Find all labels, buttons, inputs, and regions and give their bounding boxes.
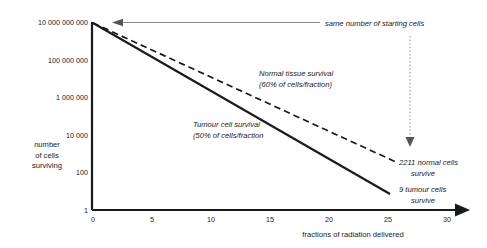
x-tick-label: 5 bbox=[150, 215, 154, 224]
starting-cells-callout-label: same number of starting cells bbox=[325, 19, 424, 28]
y-axis-title-line: surviving bbox=[32, 161, 62, 170]
normal-end-pointer bbox=[406, 36, 415, 147]
y-tick-labels: 10 000 000 000 100 000 000 1 000 000 10 … bbox=[38, 18, 88, 215]
x-axis-title: fractions of radiation delivered bbox=[302, 230, 403, 239]
y-tick-label: 1 bbox=[84, 206, 88, 215]
tumour-cell-label-line: Tumour cell survival bbox=[193, 120, 260, 129]
normal-end-label-line: survive bbox=[411, 169, 435, 178]
x-tick-label: 15 bbox=[266, 215, 274, 224]
normal-tissue-label-line: (60% of cells/fraction) bbox=[259, 80, 332, 89]
y-tick-label: 100 bbox=[76, 168, 88, 177]
tumour-end-label-line: survive bbox=[411, 196, 435, 205]
x-tick-label: 0 bbox=[91, 215, 95, 224]
y-tick-label: 1 000 000 bbox=[56, 93, 88, 102]
normal-end-label: 2211 normal cells survive bbox=[398, 158, 458, 178]
series-line-normal-tissue bbox=[93, 23, 396, 162]
normal-tissue-curve-label: Normal tissue survival (60% of cells/fra… bbox=[259, 69, 334, 89]
y-axis-title-line: of cells bbox=[35, 151, 59, 160]
x-tick-label: 30 bbox=[443, 215, 451, 224]
normal-end-arrowhead-icon bbox=[406, 137, 415, 147]
series-line-tumour-cell bbox=[93, 23, 390, 194]
x-tick-label: 25 bbox=[384, 215, 392, 224]
y-axis-title-line: number bbox=[34, 140, 60, 149]
tumour-end-label-line: 9 tumour cells bbox=[399, 185, 446, 194]
chart-svg: 10 000 000 000 100 000 000 1 000 000 10 … bbox=[0, 0, 487, 248]
y-tick-label: 100 000 000 bbox=[48, 56, 88, 65]
x-tick-labels: 0 5 10 15 20 25 30 bbox=[91, 215, 451, 224]
y-tick-label: 10 000 bbox=[66, 131, 88, 140]
tumour-cell-label-line: (50% of cells/fraction bbox=[193, 131, 263, 140]
normal-end-label-line: 2211 normal cells bbox=[398, 158, 458, 167]
x-tick-label: 20 bbox=[325, 215, 333, 224]
cell-survival-chart: 10 000 000 000 100 000 000 1 000 000 10 … bbox=[0, 0, 487, 248]
x-axis-arrowhead bbox=[455, 204, 470, 217]
normal-tissue-label-line: Normal tissue survival bbox=[259, 69, 334, 78]
tumour-end-label: 9 tumour cells survive bbox=[399, 185, 446, 205]
starting-cells-callout: same number of starting cells bbox=[112, 19, 424, 28]
starting-cells-arrowhead-icon bbox=[112, 19, 123, 26]
x-tick-label: 10 bbox=[207, 215, 215, 224]
y-axis-title: number of cells surviving bbox=[32, 140, 62, 170]
y-tick-label: 10 000 000 000 bbox=[38, 18, 88, 27]
tumour-cell-curve-label: Tumour cell survival (50% of cells/fract… bbox=[193, 120, 263, 140]
